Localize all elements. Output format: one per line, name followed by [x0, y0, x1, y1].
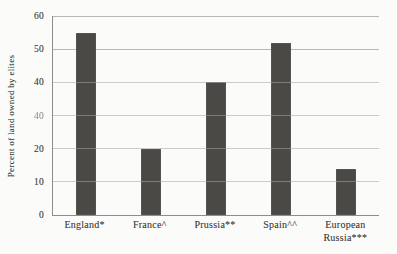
bar-european-russia: [336, 169, 356, 215]
y-tick-label-50: 50: [0, 44, 44, 55]
gridline-overlay-30: [53, 115, 379, 116]
y-tick-label-0: 0: [0, 210, 44, 221]
bar-england: [76, 33, 96, 215]
y-tick-label-40: 40: [0, 77, 44, 88]
gridline-overlay-20: [53, 148, 379, 149]
y-tick-label-10: 10: [0, 177, 44, 188]
plot-area: [52, 16, 379, 216]
gridline-overlay-40: [53, 82, 379, 83]
gridline-overlay-10: [53, 181, 379, 182]
y-tick-label-20: 20: [0, 144, 44, 155]
y-tick-label-60: 60: [0, 11, 44, 22]
land-ownership-bar-chart: Percent of land owned by elites 60 50 40…: [0, 0, 397, 254]
bar-spain: [271, 43, 291, 215]
gridline-50: [53, 49, 379, 50]
x-label-european-russia-line2: Russia***: [300, 232, 390, 245]
x-label-european-russia: European Russia***: [300, 219, 390, 244]
y-tick-label-30: 40: [0, 111, 44, 122]
gridline-60: [53, 16, 379, 17]
x-label-european-russia-line1: European: [300, 219, 390, 232]
